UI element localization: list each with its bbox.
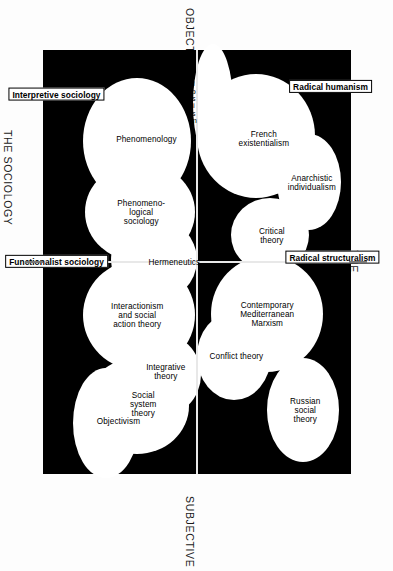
label-objectivism: Objectivism bbox=[84, 417, 152, 426]
label-integrative-theory: Integrative theory bbox=[134, 363, 198, 381]
quadrant-tag-radical-humanism: Radical humanism bbox=[289, 80, 372, 93]
solipsism-letter: m bbox=[191, 117, 197, 124]
label-critical-theory: Critical theory bbox=[242, 227, 302, 245]
diagram-field: French existentialism Anarchistic indivi… bbox=[43, 50, 351, 474]
label-phenomenology: Phenomenology bbox=[104, 135, 188, 144]
label-interactionism-and-social-action-theory: Interactionism and social action theory bbox=[97, 302, 177, 330]
label-french-existentialism: French existentialism bbox=[221, 130, 307, 148]
label-conflict-theory: Conflict theory bbox=[201, 352, 271, 361]
quadrant-tag-functionalist-sociology: Functionalist sociology bbox=[5, 255, 108, 268]
quadrant-tag-interpretive-sociology: Interpretive sociology bbox=[8, 88, 104, 101]
label-phenomenological-sociology: Phenomeno- logical sociology bbox=[104, 199, 178, 227]
axis-label-sociology-of-radical-change: THE SOCIOLOGY OF RADICAL CHANGE bbox=[0, 130, 14, 252]
label-social-system-theory: Social system theory bbox=[112, 391, 174, 419]
label-solipsism: s o l i p s i s m bbox=[187, 58, 201, 125]
axis-stub-subjective bbox=[25, 261, 43, 263]
label-russian-social-theory: Russian social theory bbox=[274, 397, 336, 425]
label-hermeneutics: Hermeneutics bbox=[141, 258, 207, 267]
paradigm-diagram: French existentialism Anarchistic indivi… bbox=[21, 36, 371, 512]
label-contemporary-mediterranean-marxism: Contemporary Mediterranean Marxism bbox=[224, 301, 310, 329]
axis-stub-objective bbox=[349, 261, 367, 263]
scanned-page-background: OBJECTIVE SUBJECTIVE THE SOCIOLOGY OF RA… bbox=[0, 0, 393, 571]
label-anarchistic-individualism: Anarchistic individualism bbox=[271, 174, 353, 192]
